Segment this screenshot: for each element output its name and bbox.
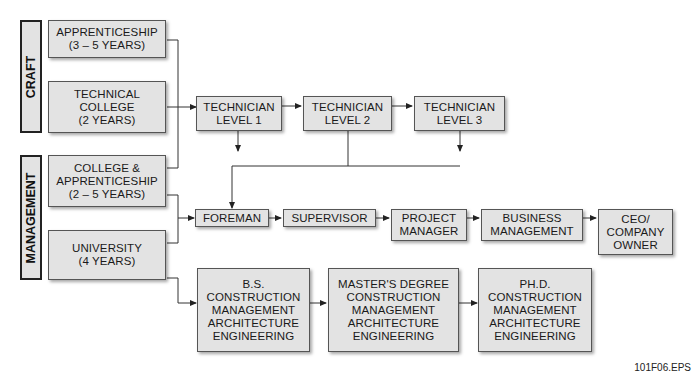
management-label: MANAGEMENT <box>20 155 42 280</box>
figure-label: 101F06.EPS <box>634 362 691 373</box>
supervisor-box: SUPERVISOR <box>283 209 376 227</box>
masters-degree-box: MASTER'S DEGREE CONSTRUCTION MANAGEMENT … <box>328 268 459 352</box>
technician-level-1-box: TECHNICIAN LEVEL 1 <box>196 96 282 131</box>
ceo-company-owner-box: CEO/ COMPANY OWNER <box>598 209 673 255</box>
technical-college-box: TECHNICAL COLLEGE (2 YEARS) <box>48 81 166 133</box>
bs-degree-box: B.S. CONSTRUCTION MANAGEMENT ARCHITECTUR… <box>197 268 310 352</box>
apprenticeship-box: APPRENTICESHIP (3 – 5 YEARS) <box>48 20 166 58</box>
foreman-box: FOREMAN <box>195 209 269 227</box>
management-label-text: MANAGEMENT <box>24 172 38 263</box>
business-management-box: BUSINESS MANAGEMENT <box>481 209 583 241</box>
phd-degree-box: PH.D. CONSTRUCTION MANAGEMENT ARCHITECTU… <box>478 268 592 352</box>
project-manager-box: PROJECT MANAGER <box>391 209 467 241</box>
technician-level-2-box: TECHNICIAN LEVEL 2 <box>303 96 392 131</box>
university-box: UNIVERSITY (4 YEARS) <box>48 230 166 280</box>
technician-level-3-box: TECHNICIAN LEVEL 3 <box>414 96 505 131</box>
college-apprenticeship-box: COLLEGE & APPRENTICESHIP (2 – 5 YEARS) <box>48 155 166 207</box>
craft-label: CRAFT <box>20 20 42 133</box>
craft-label-text: CRAFT <box>24 55 38 97</box>
